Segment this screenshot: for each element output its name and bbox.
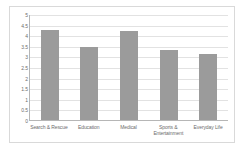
bar-slot — [109, 15, 149, 120]
bar-slot — [149, 15, 189, 120]
bar-series — [30, 15, 228, 120]
y-axis-tick-label: 2 — [25, 76, 28, 81]
y-axis-tick-label: 0 — [25, 119, 28, 124]
y-axis-tick-label: 4.5 — [21, 23, 28, 28]
bar — [41, 30, 59, 120]
bar — [160, 50, 178, 120]
bar-slot — [70, 15, 110, 120]
plot-area — [29, 15, 228, 121]
y-axis-tick-label: 1.5 — [21, 87, 28, 92]
bar — [80, 47, 98, 120]
x-axis-tick-label: Education — [69, 124, 109, 144]
y-axis-tick-label: 0.5 — [21, 108, 28, 113]
y-axis-tick-label: 4 — [25, 34, 28, 39]
bar-slot — [30, 15, 70, 120]
x-axis: Search & RescueEducationMedicalSports & … — [29, 124, 228, 144]
x-axis-tick-label: Everyday Life — [188, 124, 228, 144]
y-axis-tick-label: 3 — [25, 55, 28, 60]
x-axis-tick-label: Sports & Entertainment — [148, 124, 188, 144]
bar-slot — [188, 15, 228, 120]
x-axis-tick-label: Medical — [109, 124, 149, 144]
y-axis-tick-label: 2.5 — [21, 66, 28, 71]
y-axis: 54.543.532.521.510.50 — [12, 15, 28, 121]
chart-container: 54.543.532.521.510.50 Search & RescueEdu… — [9, 6, 235, 143]
chart-plot-wrapper: 54.543.532.521.510.50 Search & RescueEdu… — [10, 7, 234, 142]
bar — [199, 54, 217, 120]
bar — [120, 31, 138, 120]
y-axis-tick-label: 3.5 — [21, 44, 28, 49]
y-axis-tick-label: 1 — [25, 97, 28, 102]
x-axis-tick-label: Search & Rescue — [29, 124, 69, 144]
y-axis-tick-label: 5 — [25, 13, 28, 18]
